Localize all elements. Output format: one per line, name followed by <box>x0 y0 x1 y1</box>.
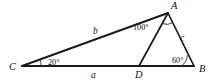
angle-label-A: 100° <box>133 23 149 32</box>
vertex-label-B: B <box>199 63 206 74</box>
geometry-canvas: C B D A a b c 20° 60° 100° <box>0 0 215 82</box>
angle-arc-C <box>40 60 41 67</box>
vertex-label-D: D <box>134 69 143 80</box>
side-label-c: c <box>180 33 185 43</box>
geometry-diagram: C B D A a b c 20° 60° 100° <box>0 0 215 82</box>
side-label-b: b <box>93 26 98 36</box>
angle-arc-A <box>163 23 173 25</box>
vertex-label-A: A <box>170 0 178 11</box>
segment-CA <box>22 13 168 66</box>
side-label-a: a <box>91 70 96 80</box>
angle-label-B: 60° <box>172 56 183 65</box>
angle-label-C: 20° <box>48 58 59 67</box>
vertex-label-C: C <box>9 61 17 72</box>
